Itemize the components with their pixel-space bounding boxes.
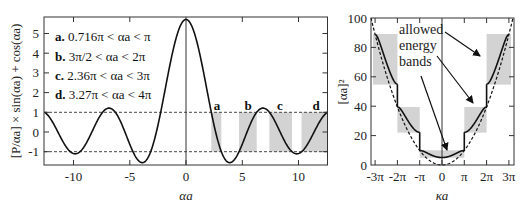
y-tick-label: 100	[348, 11, 368, 26]
x-tick-label: 2π	[480, 169, 494, 184]
allowed-energy-bands-annotation: allowed energy bands	[399, 22, 443, 69]
x-tick-label: 5	[239, 169, 246, 184]
left-y-axis-label: [P/αa] × sin(αa) + cos(αa)	[8, 24, 23, 159]
legend-item-a: a. 0.716π < αa < π	[55, 29, 151, 44]
x-tick-label: -2π	[389, 169, 407, 184]
left-x-tick-labels: -10 -5 0 5 10	[65, 169, 305, 184]
legend-item-b: b. 3π/2 < αa < 2π	[55, 49, 146, 64]
x-tick-label: 0	[439, 169, 446, 184]
right-x-tick-labels: -3π -2π -π 0 π 2π 3π	[366, 169, 515, 184]
left-legend: a. 0.716π < αa < π b. 3π/2 < αa < 2π c. …	[55, 29, 152, 102]
left-y-tick-labels: -1 0 1 2 3 4 5	[28, 26, 39, 159]
x-tick-label: -3π	[366, 169, 384, 184]
x-tick-label: π	[461, 169, 468, 184]
right-x-axis-label: κa	[436, 188, 449, 203]
y-tick-label: 4	[33, 46, 40, 61]
right-plot: -3π -2π -π 0 π 2π 3π 0 20 40 60 80 100 κ…	[335, 11, 516, 204]
band-letter-b: b	[244, 98, 251, 113]
legend-item-c: c. 2.36π < αa < 3π	[55, 68, 150, 83]
x-tick-label: 10	[292, 169, 305, 184]
band2-shade-right	[464, 107, 486, 133]
band-letter-d: d	[312, 98, 320, 113]
x-tick-label: -5	[124, 169, 135, 184]
right-y-axis-label: [αa]²	[335, 79, 350, 104]
x-tick-label: -10	[65, 169, 82, 184]
x-tick-label: -π	[414, 169, 425, 184]
y-tick-label: 5	[33, 26, 40, 41]
y-tick-label: 0	[361, 158, 368, 173]
y-tick-label: 3	[33, 65, 40, 80]
left-shaded-bands	[211, 112, 327, 151]
y-tick-label: 80	[354, 40, 367, 55]
annotation-line-3: bands	[399, 54, 432, 69]
figure: -10 -5 0 5 10 -1 0 1 2 3 4 5 αa [P/αa] ×…	[0, 0, 528, 207]
y-tick-label: 20	[354, 128, 367, 143]
band-letter-c: c	[277, 98, 283, 113]
left-plot: -10 -5 0 5 10 -1 0 1 2 3 4 5 αa [P/αa] ×…	[8, 17, 328, 203]
y-tick-label: 60	[354, 69, 367, 84]
left-x-axis-label: αa	[179, 188, 193, 203]
y-tick-label: 2	[33, 85, 40, 100]
x-tick-label: 3π	[502, 169, 516, 184]
y-tick-label: 1	[33, 105, 40, 120]
band2-shade-left	[397, 107, 419, 133]
y-tick-label: 0	[33, 125, 40, 140]
band-letter-a: a	[214, 98, 221, 113]
arrow-to-band3	[445, 32, 480, 56]
x-tick-label: 0	[183, 169, 190, 184]
legend-item-d: d. 3.27π < αa < 4π	[55, 87, 152, 102]
y-tick-label: -1	[28, 144, 39, 159]
annotation-line-1: allowed	[399, 22, 443, 37]
annotation-line-2: energy	[399, 38, 437, 53]
arrow-to-band1	[421, 76, 447, 150]
y-tick-label: 40	[354, 99, 367, 114]
right-y-tick-labels: 0 20 40 60 80 100	[348, 11, 368, 173]
